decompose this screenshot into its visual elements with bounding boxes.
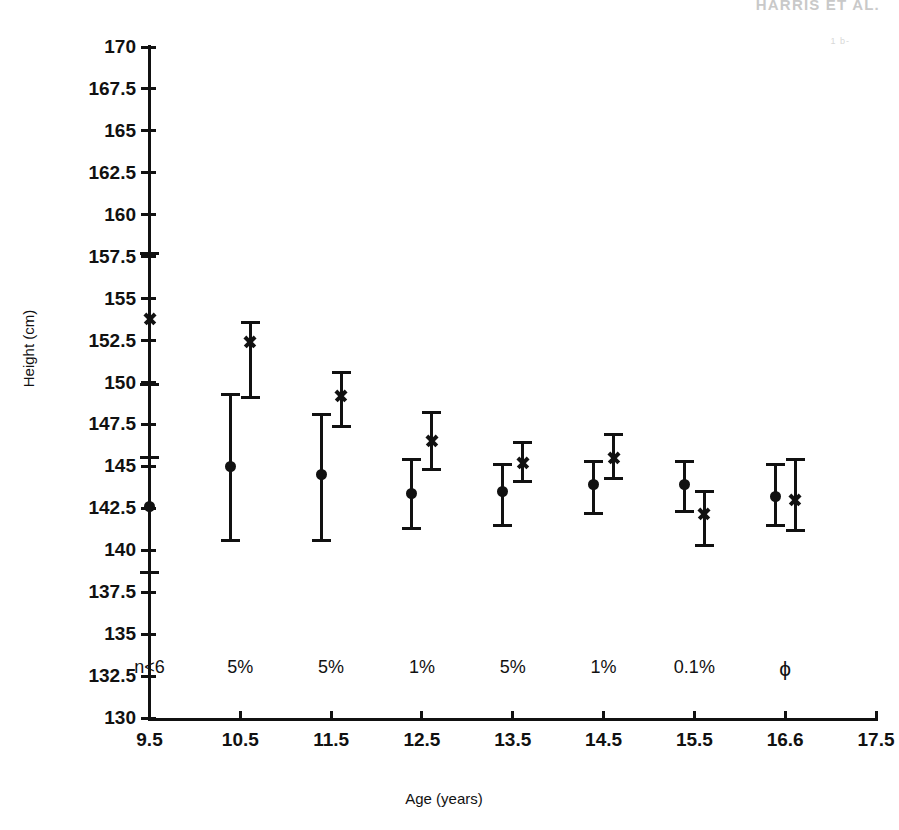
- y-tick-mark: [141, 129, 156, 132]
- x-tick-label: 10.5: [205, 730, 275, 749]
- error-bar-upper-cap: [675, 460, 694, 463]
- circle-marker-icon: [770, 491, 781, 502]
- error-bar-lower-cap: [140, 571, 159, 574]
- error-bar-upper-cap: [604, 433, 623, 436]
- error-bar-upper-cap: [513, 441, 532, 444]
- x-tick-label: 11.5: [296, 730, 366, 749]
- error-bar-upper-cap: [402, 458, 421, 461]
- error-bar-lower-cap: [332, 425, 351, 428]
- error-bar-lower-cap: [312, 539, 331, 542]
- y-tick-label: 142.5: [0, 498, 136, 517]
- y-tick-label: 160: [0, 205, 136, 224]
- x-tick-label: 14.5: [569, 730, 639, 749]
- error-bar-lower-cap: [766, 524, 785, 527]
- error-bar: [329, 369, 353, 429]
- y-tick-label: 137.5: [0, 582, 136, 601]
- error-bar-stem: [249, 322, 252, 397]
- y-axis-title: Height (cm): [20, 279, 37, 419]
- error-bar: [138, 455, 162, 575]
- error-bar-upper-cap: [695, 490, 714, 493]
- x-tick-label: 9.5: [115, 730, 185, 749]
- error-bar: [218, 391, 242, 543]
- error-bar-upper-cap: [584, 460, 603, 463]
- error-bar: [783, 457, 807, 533]
- x-tick-mark: [420, 711, 423, 721]
- cross-marker-icon: [425, 435, 438, 448]
- y-tick-mark: [141, 591, 156, 594]
- cross-marker-icon: [335, 389, 348, 402]
- y-tick-mark: [141, 213, 156, 216]
- y-tick-mark: [141, 633, 156, 636]
- significance-label: ϕ: [730, 658, 840, 679]
- x-tick-mark: [330, 711, 333, 721]
- y-tick-label: 130: [0, 708, 136, 727]
- x-tick-mark: [875, 711, 878, 721]
- page-margin-mark: 1 b-: [830, 36, 850, 46]
- error-bar-upper-cap: [493, 463, 512, 466]
- error-bar: [309, 411, 333, 543]
- error-bar-lower-cap: [493, 524, 512, 527]
- error-bar-upper-cap: [140, 252, 159, 255]
- error-bar-lower-cap: [140, 383, 159, 386]
- error-bar-stem: [148, 458, 151, 572]
- y-tick-label: 162.5: [0, 163, 136, 182]
- x-tick-label: 15.5: [659, 730, 729, 749]
- x-tick-label: 12.5: [387, 730, 457, 749]
- y-tick-label: 140: [0, 540, 136, 559]
- y-tick-label: 135: [0, 624, 136, 643]
- error-bar: [138, 250, 162, 387]
- cross-marker-icon: [143, 312, 156, 325]
- y-tick-label: 170: [0, 37, 136, 56]
- circle-marker-icon: [679, 479, 690, 490]
- error-bar-lower-cap: [695, 544, 714, 547]
- error-bar-lower-cap: [675, 510, 694, 513]
- error-bar-lower-cap: [513, 480, 532, 483]
- running-head: HARRIS ET AL.: [756, 0, 880, 13]
- x-tick-label: 13.5: [478, 730, 548, 749]
- error-bar-lower-cap: [241, 396, 260, 399]
- y-tick-label: 145: [0, 456, 136, 475]
- x-tick-label: 16.6: [750, 730, 820, 749]
- y-tick-mark: [141, 171, 156, 174]
- error-bar-lower-cap: [584, 512, 603, 515]
- x-tick-mark: [784, 711, 787, 721]
- y-tick-mark: [141, 423, 156, 426]
- error-bar: [602, 432, 626, 482]
- error-bar: [692, 489, 716, 549]
- error-bar: [511, 440, 535, 485]
- y-tick-mark: [141, 46, 156, 49]
- cross-marker-icon: [789, 493, 802, 506]
- x-axis-title: Age (years): [0, 790, 888, 807]
- cross-marker-icon: [244, 336, 257, 349]
- circle-marker-icon: [497, 486, 508, 497]
- x-tick-mark: [511, 711, 514, 721]
- error-bar-lower-cap: [604, 477, 623, 480]
- x-tick-mark: [148, 711, 151, 721]
- x-tick-label: 17.5: [841, 730, 899, 749]
- circle-marker-icon: [588, 479, 599, 490]
- x-tick-mark: [239, 711, 242, 721]
- error-bar-upper-cap: [766, 463, 785, 466]
- circle-marker-icon: [406, 488, 417, 499]
- error-bar-lower-cap: [221, 539, 240, 542]
- cross-marker-icon: [607, 451, 620, 464]
- error-bar-upper-cap: [422, 411, 441, 414]
- error-bar-upper-cap: [332, 371, 351, 374]
- error-bar-upper-cap: [140, 456, 159, 459]
- y-tick-label: 157.5: [0, 247, 136, 266]
- error-bar-lower-cap: [402, 527, 421, 530]
- y-tick-label: 165: [0, 121, 136, 140]
- circle-marker-icon: [225, 461, 236, 472]
- error-bar-upper-cap: [241, 321, 260, 324]
- error-bar-lower-cap: [786, 529, 805, 532]
- error-bar-upper-cap: [221, 393, 240, 396]
- error-bar: [238, 319, 262, 400]
- x-tick-mark: [693, 711, 696, 721]
- circle-marker-icon: [144, 501, 155, 512]
- error-bar-upper-cap: [312, 413, 331, 416]
- y-tick-mark: [141, 87, 156, 90]
- x-tick-mark: [602, 711, 605, 721]
- error-bar-lower-cap: [422, 468, 441, 471]
- error-bar: [420, 410, 444, 473]
